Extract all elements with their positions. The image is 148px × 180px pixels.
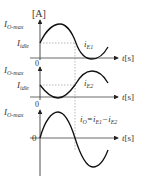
- ie2-curve: [40, 71, 108, 98]
- graph-ie1: [A] IO-max Iidle iE1 t[s]: [3, 8, 134, 63]
- graph-io: 0 IO-max 0 iO=iE1−iE2 t[s]: [3, 100, 134, 176]
- ymax-label: IO-max: [3, 19, 24, 30]
- t-label: t[s]: [122, 92, 134, 102]
- ymax-label: IO-max: [3, 107, 24, 118]
- unit-label: [A]: [32, 8, 46, 19]
- ymax-label: IO-max: [3, 65, 24, 76]
- zero-label: 0: [32, 133, 37, 143]
- waveform-diagram: [A] IO-max Iidle iE1 t[s] 0 IO-max Iidle…: [0, 0, 148, 180]
- idle-label: Iidle: [16, 38, 29, 49]
- graph-ie2: 0 IO-max Iidle iE2 t[s]: [3, 59, 134, 102]
- t-label: t[s]: [122, 133, 134, 143]
- t-label: t[s]: [122, 53, 134, 63]
- equation-label: iO=iE1−iE2: [80, 114, 117, 125]
- curve-label-ie1: iE1: [84, 39, 93, 50]
- zero-label-top: 0: [35, 100, 39, 109]
- curve-label-ie2: iE2: [84, 78, 93, 89]
- zero-label: 0: [35, 59, 39, 68]
- ie1-curve: [40, 24, 108, 59]
- idle-label: Iidle: [16, 80, 29, 91]
